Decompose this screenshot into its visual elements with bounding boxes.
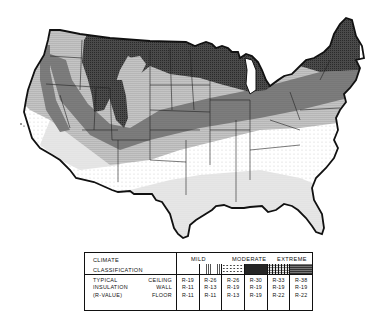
rvalue-column: R-26 R-13 R-11 [200,274,223,310]
ceiling-value: R-30 [245,277,267,284]
floor-value: R-13 [222,292,244,299]
wall-label: WALL [148,284,172,291]
rvalue-label: (R-VALUE) [93,292,128,299]
wall-value: R-19 [222,284,244,291]
wall-value: R-11 [177,284,199,291]
swatch-extreme-coarse [268,264,291,274]
floor-value: R-19 [245,292,267,299]
swatch-moderate-dense [245,264,268,274]
floor-value: R-22 [268,292,290,299]
rvalue-column: R-38 R-19 R-22 [290,274,312,310]
swatch-moderate-sparse [222,264,245,274]
ceiling-value: R-33 [268,277,290,284]
floor-value: R-11 [200,292,222,299]
legend-table: CLIMATE CLASSIFICATION TYPICAL INSULATIO… [84,252,313,311]
moderate-header: MODERATE [232,256,266,262]
classification-label: CLASSIFICATION [93,267,143,273]
ceiling-value: R-26 [200,277,222,284]
wall-value: R-19 [245,284,267,291]
rvalue-column: R-33 R-19 R-22 [268,274,291,310]
rvalue-columns: R-19 R-11 R-11 R-26 R-13 R-11 R-26 R-19 … [177,274,312,310]
floor-label: FLOOR [148,292,172,299]
legend-values: MILD MODERATE EXTREME R-19 R-11 R-11 R-2… [177,253,312,310]
extreme-header: EXTREME [277,256,307,262]
building-parts-labels: CEILING WALL FLOOR [148,277,172,299]
insulation-label: INSULATION [93,284,128,291]
swatch-mild-blank [177,264,200,274]
swatch-mild-grid [200,264,223,274]
ceiling-value: R-26 [222,277,244,284]
ceiling-label: CEILING [148,277,172,284]
floor-value: R-11 [177,292,199,299]
rvalue-column: R-19 R-11 R-11 [177,274,200,310]
rvalue-column: R-30 R-19 R-19 [245,274,268,310]
wall-value: R-19 [290,284,312,291]
swatch-extreme-dark [290,264,312,274]
legend-labels: CLIMATE CLASSIFICATION TYPICAL INSULATIO… [85,253,177,310]
wall-value: R-19 [268,284,290,291]
legend-divider [85,274,176,275]
ceiling-value: R-38 [290,277,312,284]
wall-value: R-13 [200,284,222,291]
climate-label: CLIMATE [93,257,119,263]
mild-header: MILD [191,256,206,262]
rvalue-column: R-26 R-19 R-13 [222,274,245,310]
typical-label: TYPICAL [93,277,128,284]
us-climate-map [0,0,382,245]
typical-insulation-label: TYPICAL INSULATION (R-VALUE) [93,277,128,299]
ceiling-value: R-19 [177,277,199,284]
floor-value: R-22 [290,292,312,299]
